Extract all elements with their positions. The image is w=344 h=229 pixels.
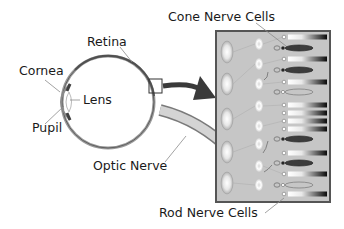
rod-cell	[282, 192, 327, 197]
rod-cell	[282, 151, 327, 156]
label-cornea: Cornea	[19, 65, 64, 78]
arrow-icon	[163, 76, 216, 100]
eye-diagram	[0, 0, 344, 229]
rod-cell	[282, 35, 327, 40]
label-rod-nerve-cells: Rod Nerve Cells	[159, 207, 258, 220]
rod-cell	[282, 172, 327, 177]
rod-cell	[282, 80, 327, 85]
label-retina: Retina	[87, 36, 127, 49]
rod-cell	[282, 127, 327, 132]
label-cone-nerve-cells: Cone Nerve Cells	[168, 11, 275, 24]
rod-cell	[282, 103, 327, 108]
rod-cell	[282, 57, 327, 62]
label-optic-nerve: Optic Nerve	[93, 160, 167, 173]
rod-cell	[282, 119, 327, 124]
rod-cell	[282, 111, 327, 116]
label-pupil: Pupil	[32, 122, 62, 135]
label-lens: Lens	[83, 94, 112, 107]
